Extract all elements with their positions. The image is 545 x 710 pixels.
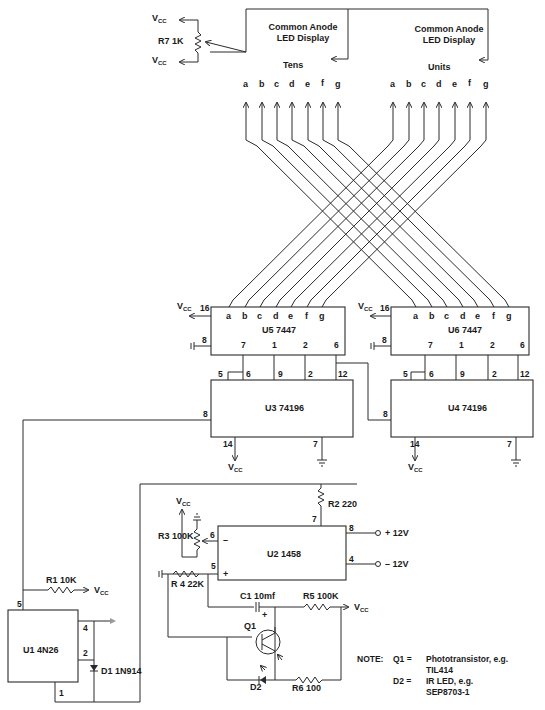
- r2-label: R2 220: [328, 500, 357, 509]
- u6-vcc-label: VCC: [358, 302, 373, 312]
- u4-pin-9: 9: [460, 370, 465, 379]
- c1-label: C1 10mf: [240, 592, 275, 601]
- r6-label: R6 100: [292, 684, 321, 693]
- tens-display-title: Common AnodeLED Display: [258, 23, 348, 43]
- u1-pin-4: 4: [83, 624, 88, 633]
- u5-pin-6: 6: [334, 341, 339, 350]
- u6-pin-6: 6: [520, 341, 525, 350]
- u2-inverting-input: –: [223, 536, 228, 545]
- u4-label: U4 74196: [448, 404, 487, 413]
- units-display-title: Common AnodeLED Display: [404, 25, 494, 45]
- q1-label: Q1: [244, 622, 256, 631]
- u6-label: U6 7447: [448, 326, 482, 335]
- r5-label: R5 100K: [303, 592, 339, 601]
- u3-pin-9: 9: [278, 370, 283, 379]
- u4-pin-14: 14: [410, 440, 419, 449]
- u2-pin-7: 7: [312, 515, 317, 524]
- u4-pin-7: 7: [507, 440, 512, 449]
- segment-crossover-wiring: [229, 103, 509, 307]
- u3-pin-8: 8: [203, 410, 208, 419]
- r5-vcc-label: VCC: [354, 603, 369, 613]
- u3-pin-14: 14: [223, 440, 232, 449]
- d2-label: D2: [250, 683, 262, 692]
- u3-pin-2: 2: [308, 370, 313, 379]
- u6-pin-16: 16: [380, 304, 389, 313]
- u4-pin-5: 5: [403, 370, 408, 379]
- u5-pin-2: 2: [303, 341, 308, 350]
- supply-negative-label: – 12V: [385, 560, 409, 569]
- u3-pin-5: 5: [218, 370, 223, 379]
- u3-pin-7: 7: [313, 440, 318, 449]
- u1-pin-5: 5: [17, 600, 22, 609]
- u3-pin-12: 12: [338, 370, 347, 379]
- u4-pin-12: 12: [520, 370, 529, 379]
- u2-pin-8: 8: [349, 524, 354, 533]
- u1-pin-2: 2: [83, 649, 88, 658]
- r4-label: R 4 22K: [171, 580, 204, 589]
- tens-display-label: Tens: [283, 61, 303, 70]
- u5-label: U5 7447: [262, 326, 296, 335]
- r7-label: R7 1K: [158, 37, 184, 46]
- u4-pin-8: 8: [383, 410, 388, 419]
- u4-vcc-label: VCC: [408, 463, 423, 473]
- u6-pin-8: 8: [382, 336, 387, 345]
- c1-polarity: +: [262, 611, 267, 620]
- u3-vcc-label: VCC: [228, 463, 243, 473]
- r7-vcc-top-label: VCC: [152, 14, 167, 24]
- u5-vcc-label: VCC: [177, 302, 192, 312]
- u6-pin-2: 2: [490, 341, 495, 350]
- u2-noninverting-input: +: [223, 570, 228, 579]
- u6-pin-7: 7: [428, 341, 433, 350]
- supply-positive-label: + 12V: [385, 529, 409, 538]
- r1-vcc-label: VCC: [94, 586, 109, 596]
- u1-pin-1: 1: [59, 689, 64, 698]
- u4-pin-6: 6: [429, 370, 434, 379]
- r3-vcc-label: VCC: [176, 497, 191, 507]
- units-display-label: Units: [428, 63, 451, 72]
- u2-pin-4: 4: [349, 555, 354, 564]
- r3-label: R3 100K: [158, 532, 194, 541]
- u5-pin-7: 7: [241, 341, 246, 350]
- u2-pin-6: 6: [210, 531, 215, 540]
- u2-pin-5: 5: [211, 562, 216, 571]
- u2-label: U2 1458: [267, 550, 301, 559]
- u6-pin-1: 1: [459, 341, 464, 350]
- u4-pin-2: 2: [492, 370, 497, 379]
- u5-pin-16: 16: [200, 304, 209, 313]
- d1-label: D1 1N914: [101, 667, 142, 676]
- u3-pin-6: 6: [246, 370, 251, 379]
- u5-pin-8: 8: [202, 336, 207, 345]
- u1-label: U1 4N26: [23, 646, 59, 655]
- r7-vcc-bottom-label: VCC: [152, 56, 167, 66]
- u3-label: U3 74196: [265, 404, 304, 413]
- u5-pin-1: 1: [272, 341, 277, 350]
- schematic-wiring: [0, 0, 545, 710]
- component-note: NOTE:Q1 =Phototransistor, e.g. TIL414 D2…: [357, 654, 508, 698]
- r1-label: R1 10K: [46, 576, 77, 585]
